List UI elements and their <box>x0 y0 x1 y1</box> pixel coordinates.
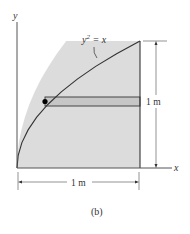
equation-rhs: = x <box>90 34 107 45</box>
equation-label: y2 = x <box>81 33 107 45</box>
differential-strip <box>45 97 140 106</box>
height-dim-arrow-top <box>155 41 158 45</box>
strip-endpoint-dot <box>42 99 47 104</box>
width-dim-arrow-right <box>135 181 139 184</box>
width-dim-label: 1 m <box>71 178 86 188</box>
height-dim-label: 1 m <box>146 97 161 107</box>
y-axis-label: y <box>12 10 18 21</box>
height-dim-arrow-bottom <box>155 164 158 168</box>
x-axis-label: x <box>173 162 179 173</box>
figure-caption: (b) <box>91 206 103 218</box>
width-dim-arrow-left <box>18 181 22 184</box>
area-diagram: y x y2 = x 1 m 1 m (b) <box>0 0 190 234</box>
